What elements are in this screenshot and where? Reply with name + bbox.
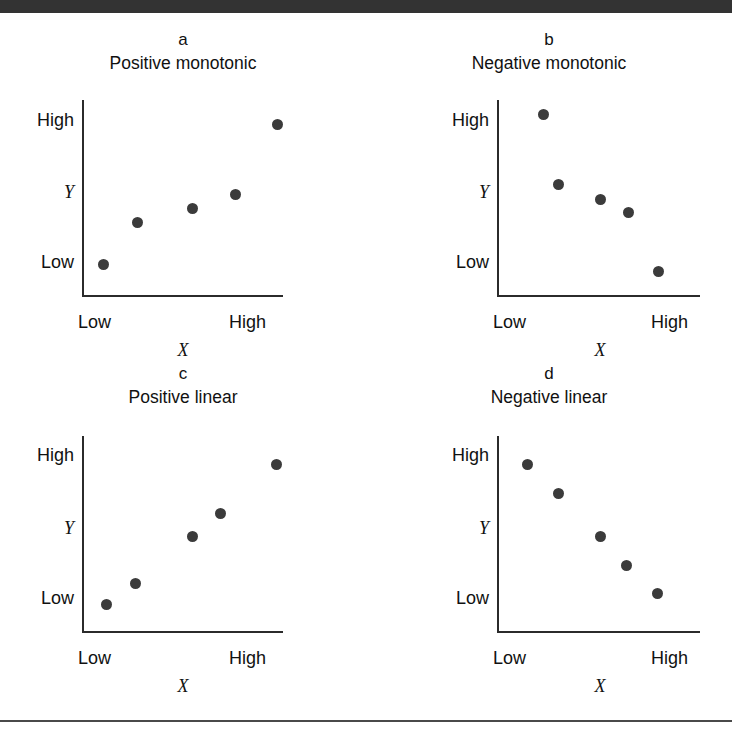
panel-a-x-tick-low: Low	[78, 312, 111, 332]
panel-c-x-tick-high: High	[229, 648, 266, 668]
panel-d-x-axis	[497, 631, 700, 633]
panel-a-y-axis-label: Y	[10, 182, 74, 202]
panel-a-x-tick-high: High	[229, 312, 266, 332]
panel-c-x-axis-label: X	[163, 676, 203, 696]
panel-a-x-axis-label: X	[163, 340, 203, 360]
panel-b-plot: High Y Low Low High X	[366, 30, 732, 360]
panel-a-y-tick-high: High	[10, 110, 74, 130]
panel-a: a Positive monotonic High Y Low Low High…	[0, 30, 366, 360]
data-point	[652, 588, 663, 599]
data-point	[272, 119, 283, 130]
panel-d-y-tick-high: High	[425, 445, 489, 465]
panel-c-x-axis	[82, 631, 283, 633]
bottom-divider	[0, 720, 732, 722]
panel-c-x-tick-low: Low	[78, 648, 111, 668]
data-point	[101, 599, 112, 610]
data-point	[595, 194, 606, 205]
panel-b-x-axis-label: X	[580, 340, 620, 360]
panel-a-y-axis	[82, 100, 84, 297]
panel-b-y-tick-high: High	[425, 110, 489, 130]
data-point	[187, 531, 198, 542]
data-point	[522, 459, 533, 470]
data-point	[621, 560, 632, 571]
panel-a-y-tick-low: Low	[10, 252, 74, 272]
panel-d-y-axis	[497, 436, 499, 633]
panel-d-plot: High Y Low Low High X	[366, 364, 732, 694]
panel-c-plot: High Y Low Low High X	[0, 364, 366, 694]
data-point	[98, 259, 109, 270]
panel-b-x-tick-high: High	[651, 312, 688, 332]
panel-a-x-axis	[82, 295, 283, 297]
panel-b-y-axis-label: Y	[425, 182, 489, 202]
panel-d-x-tick-high: High	[651, 648, 688, 668]
panel-d: d Negative linear High Y Low Low High X	[366, 364, 732, 694]
panel-d-x-tick-low: Low	[493, 648, 526, 668]
panel-c-y-axis	[82, 436, 84, 633]
data-point	[595, 531, 606, 542]
panel-d-x-axis-label: X	[580, 676, 620, 696]
data-point	[132, 217, 143, 228]
data-point	[653, 266, 664, 277]
data-point	[623, 207, 634, 218]
data-point	[187, 203, 198, 214]
panel-c-y-tick-high: High	[10, 445, 74, 465]
panel-c-y-axis-label: Y	[10, 518, 74, 538]
panel-b-y-axis	[497, 100, 499, 297]
panel-c: c Positive linear High Y Low Low High X	[0, 364, 366, 694]
data-point	[130, 578, 141, 589]
panel-a-plot: High Y Low Low High X	[0, 30, 366, 360]
top-dark-band	[0, 0, 732, 13]
figure-page: a Positive monotonic High Y Low Low High…	[0, 0, 732, 734]
data-point	[538, 109, 549, 120]
panel-c-y-tick-low: Low	[10, 588, 74, 608]
panel-b-y-tick-low: Low	[425, 252, 489, 272]
data-point	[553, 488, 564, 499]
data-point	[215, 508, 226, 519]
panel-d-y-tick-low: Low	[425, 588, 489, 608]
panel-b-x-tick-low: Low	[493, 312, 526, 332]
data-point	[553, 179, 564, 190]
panel-b: b Negative monotonic High Y Low Low High…	[366, 30, 732, 360]
panel-d-y-axis-label: Y	[425, 518, 489, 538]
panel-b-x-axis	[497, 295, 700, 297]
data-point	[230, 189, 241, 200]
data-point	[271, 459, 282, 470]
